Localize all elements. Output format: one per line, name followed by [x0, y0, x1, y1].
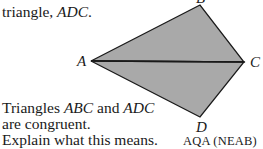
- vertex-label-a: A: [77, 54, 86, 69]
- vertex-label-b: B: [196, 0, 205, 6]
- vertex-label-c: C: [250, 55, 260, 70]
- q-triangle-adc: ADC: [123, 99, 154, 116]
- exam-source: AQA (NEAB): [183, 134, 257, 149]
- question-line-2: are congruent.: [2, 115, 91, 132]
- question-line-1: Triangles ABC and ADC: [2, 99, 154, 116]
- question-line-3: Explain what this means.: [2, 131, 158, 148]
- q-text: Triangles: [2, 99, 64, 116]
- triangle-abc: [91, 5, 244, 62]
- q-text: and: [93, 99, 123, 116]
- vertex-label-d: D: [196, 120, 207, 135]
- q-triangle-abc: ABC: [64, 99, 93, 116]
